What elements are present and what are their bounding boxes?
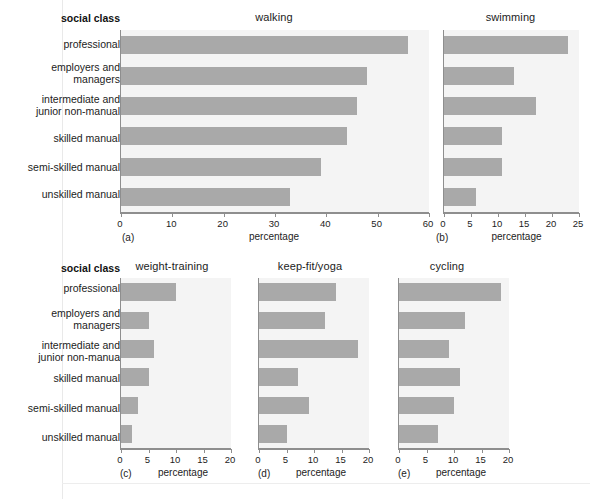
bar	[259, 368, 298, 386]
x-axis-tick	[454, 449, 455, 453]
x-axis-tick-label: 25	[563, 218, 590, 229]
x-axis-tick-label: 10	[438, 454, 468, 465]
x-axis-tick-label: 40	[310, 218, 340, 229]
x-axis-tick	[427, 449, 428, 453]
x-axis-tick-label: 20	[493, 454, 523, 465]
plot-area-e	[398, 278, 509, 448]
x-axis-tick-label: 5	[411, 454, 441, 465]
panel-letter-c: (c)	[120, 468, 132, 479]
social-class-header-top: social class	[8, 12, 120, 24]
x-axis-tick-label: 15	[466, 454, 496, 465]
bar	[121, 188, 290, 206]
panel-title-cycling: cycling	[392, 260, 502, 272]
x-axis-tick	[342, 449, 343, 453]
x-axis-tick	[149, 449, 150, 453]
bar	[259, 340, 358, 358]
x-axis-tick	[579, 213, 580, 217]
x-axis-tick-label: 15	[509, 218, 539, 229]
page-footer-rule	[62, 483, 590, 484]
bar	[444, 188, 476, 206]
x-axis-tick	[552, 213, 553, 217]
x-axis-tick	[482, 449, 483, 453]
bar	[444, 127, 502, 145]
bar	[121, 368, 149, 386]
bar	[121, 97, 357, 115]
bar	[399, 340, 449, 358]
bar	[444, 158, 502, 176]
panel-letter-b: (b)	[436, 232, 448, 243]
x-axis-tick-label: 20	[215, 454, 245, 465]
x-axis-tick	[399, 449, 400, 453]
x-axis-tick	[204, 449, 205, 453]
plot-area-a	[120, 30, 429, 212]
bar	[121, 67, 367, 85]
category-label: semi-skilled manual	[8, 161, 120, 173]
bar	[259, 312, 325, 330]
plot-area-d	[258, 278, 369, 448]
x-axis-tick	[471, 213, 472, 217]
x-axis-tick-label: 0	[383, 454, 413, 465]
x-axis-tick-label: 5	[271, 454, 301, 465]
panel-title-keep-fit-yoga: keep-fit/yoga	[250, 260, 370, 272]
x-axis-tick-label: 30	[259, 218, 289, 229]
x-axis-tick	[121, 213, 122, 217]
x-axis-label: percentage	[406, 467, 516, 478]
x-axis-tick	[429, 213, 430, 217]
x-axis-tick-label: 0	[105, 454, 135, 465]
bar	[444, 97, 536, 115]
x-axis-label: percentage	[266, 467, 376, 478]
category-label: unskilled manual	[8, 431, 120, 443]
bar	[121, 158, 321, 176]
panel-letter-d: (d)	[258, 468, 270, 479]
category-label: skilled manual	[8, 132, 120, 144]
panel-title-swimming: swimming	[443, 11, 578, 23]
category-label: unskilled manual	[8, 188, 120, 200]
x-axis-tick	[224, 213, 225, 217]
x-axis-tick-label: 10	[298, 454, 328, 465]
category-label: professional	[8, 38, 120, 50]
x-axis-tick-label: 15	[188, 454, 218, 465]
x-axis-tick	[498, 213, 499, 217]
x-axis-tick	[287, 449, 288, 453]
bar	[121, 425, 132, 443]
bar	[121, 397, 138, 415]
category-label: skilled manual	[8, 372, 120, 384]
panel-title-weight-training: weight-training	[112, 260, 232, 272]
category-label: employers and managers	[8, 307, 120, 331]
panel-title-walking: walking	[120, 11, 428, 23]
x-axis-tick-label: 0	[428, 218, 458, 229]
x-axis-tick-label: 10	[482, 218, 512, 229]
bar	[399, 312, 465, 330]
category-label: professional	[8, 282, 120, 294]
x-axis-tick-label: 0	[105, 218, 135, 229]
x-axis-tick-label: 20	[353, 454, 383, 465]
x-axis-label: percentage	[128, 467, 238, 478]
x-axis-tick	[275, 213, 276, 217]
social-class-header-bottom: social class	[8, 262, 120, 274]
x-axis-tick	[259, 449, 260, 453]
x-axis-tick	[378, 213, 379, 217]
x-axis-tick	[326, 213, 327, 217]
bar	[121, 340, 154, 358]
bar	[399, 368, 460, 386]
x-axis-tick-label: 0	[243, 454, 273, 465]
plot-area-b	[443, 30, 579, 212]
bar	[121, 283, 176, 301]
x-axis-tick	[172, 213, 173, 217]
bar	[121, 36, 408, 54]
panel-letter-a: (a)	[122, 232, 134, 243]
x-axis-tick-label: 10	[160, 454, 190, 465]
x-axis-tick	[121, 449, 122, 453]
x-axis-tick	[176, 449, 177, 453]
x-axis-tick-label: 5	[133, 454, 163, 465]
category-label: intermediate and junior non-manual	[8, 93, 120, 117]
x-axis-tick	[231, 449, 232, 453]
x-axis-tick	[369, 449, 370, 453]
bar	[121, 312, 149, 330]
x-axis-tick	[509, 449, 510, 453]
category-label: employers and managers	[8, 61, 120, 85]
bar	[259, 397, 309, 415]
x-axis-tick	[525, 213, 526, 217]
x-axis-tick	[314, 449, 315, 453]
x-axis-label: percentage	[449, 231, 584, 242]
